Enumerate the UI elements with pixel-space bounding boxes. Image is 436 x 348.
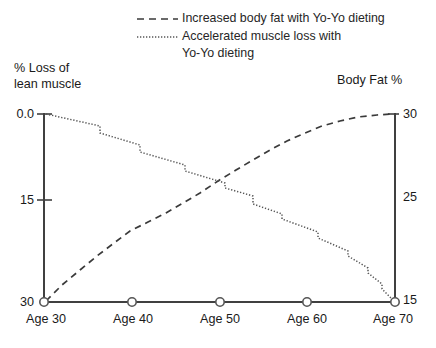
x-marker-age-70 bbox=[391, 298, 399, 306]
right-tick-label-25: 25 bbox=[403, 190, 417, 204]
x-marker-age-50 bbox=[216, 298, 224, 306]
left-tick-label-15: 15 bbox=[2, 193, 34, 207]
series-increased-body-fat bbox=[46, 114, 393, 301]
x-tick-label-age-60: Age 60 bbox=[287, 312, 327, 326]
left-tick-label-30: 30 bbox=[2, 295, 34, 309]
chart-plot-area bbox=[0, 0, 436, 348]
right-tick-label-30: 30 bbox=[403, 107, 417, 121]
series-accelerated-muscle-loss bbox=[46, 114, 393, 300]
right-tick-label-15: 15 bbox=[403, 293, 417, 307]
x-tick-label-age-70: Age 70 bbox=[373, 312, 413, 326]
x-tick-label-age-30: Age 30 bbox=[26, 312, 66, 326]
x-tick-label-age-50: Age 50 bbox=[200, 312, 240, 326]
left-tick-label-0: 0.0 bbox=[2, 107, 34, 121]
x-marker-age-60 bbox=[303, 298, 311, 306]
chart-screenshot: Increased body fat with Yo-Yo dieting Ac… bbox=[0, 0, 436, 348]
x-marker-age-40 bbox=[128, 298, 136, 306]
x-tick-label-age-40: Age 40 bbox=[113, 312, 153, 326]
x-marker-age-30 bbox=[40, 298, 48, 306]
